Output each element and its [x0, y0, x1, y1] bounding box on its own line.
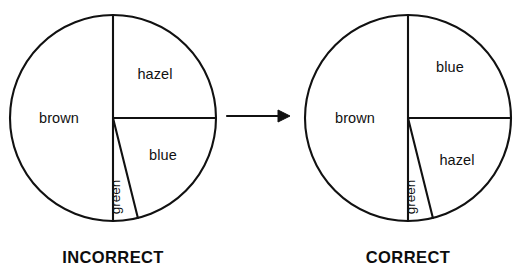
pie-slice-label-blue-incorrect: blue — [149, 147, 177, 163]
pie-slice-label-green-incorrect: green — [108, 180, 123, 215]
pie-chart-correct: brown blue hazel green CORRECT — [305, 15, 511, 266]
chart-caption-incorrect: INCORRECT — [62, 248, 164, 266]
chart-caption-correct: CORRECT — [366, 248, 450, 266]
transition-arrow — [227, 110, 290, 122]
pie-slice-label-hazel-correct: hazel — [439, 152, 474, 168]
pie-slice-label-brown-correct: brown — [335, 110, 375, 126]
eye-colour-pie-chart-comparison-figure: brown hazel blue green INCORRECT brown b… — [0, 0, 522, 272]
pie-slice-label-brown-incorrect: brown — [39, 110, 79, 126]
pie-slice-label-blue-correct: blue — [436, 59, 464, 75]
arrow-head-icon — [278, 110, 290, 122]
pie-slice-label-hazel-incorrect: hazel — [137, 66, 172, 82]
pie-chart-incorrect: brown hazel blue green INCORRECT — [10, 15, 216, 266]
pie-slice-label-green-correct: green — [403, 180, 418, 215]
